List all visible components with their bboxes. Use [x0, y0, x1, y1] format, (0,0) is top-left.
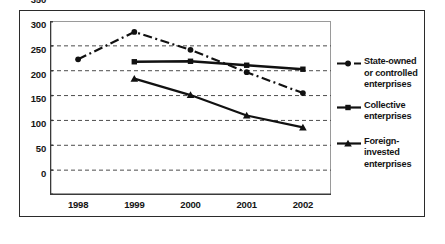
legend-label-collective-line2: enterprises: [364, 111, 411, 121]
legend-label-foreign-invested-line1: Foreign-: [364, 136, 399, 146]
x-tick-1998: 1998: [55, 199, 101, 210]
gridlines: [50, 46, 331, 170]
x-tick-2000: 2000: [168, 199, 214, 210]
y-axis-tick-labels: 350 300 250 200 150 100 50 0: [8, 0, 46, 174]
y-tick-150: 150: [12, 94, 46, 104]
legend: State-owned or controlled enterprises Co…: [337, 56, 423, 179]
y-tick-0: 0: [12, 169, 46, 179]
chart-figure: 350 300 250 200 150 100 50 0: [0, 0, 445, 244]
legend-label-state-owned: State-owned or controlled enterprises: [364, 56, 423, 91]
legend-item-foreign-invested: Foreign- invested enterprises: [337, 136, 423, 171]
y-tick-350: 350: [12, 0, 46, 5]
legend-label-foreign-invested-line2: invested: [364, 147, 400, 157]
legend-label-state-owned-line2: or controlled: [364, 68, 418, 78]
legend-key-collective-solid-square: [337, 102, 361, 113]
y-tick-200: 200: [12, 70, 46, 80]
legend-label-foreign-invested: Foreign- invested enterprises: [364, 136, 423, 171]
plot-canvas: [50, 21, 331, 195]
legend-label-state-owned-line1: State-owned: [364, 56, 416, 66]
x-tick-2001: 2001: [224, 199, 270, 210]
legend-label-state-owned-line3: enterprises: [364, 79, 411, 89]
series-collective-line: [134, 61, 303, 69]
y-tick-250: 250: [12, 45, 46, 55]
y-tick-50: 50: [12, 144, 46, 154]
legend-item-state-owned: State-owned or controlled enterprises: [337, 56, 423, 91]
x-axis-tick-labels: 1998 1999 2000 2001 2002: [50, 199, 331, 215]
series-foreign-invested: [131, 75, 307, 130]
y-tick-300: 300: [12, 20, 46, 30]
legend-label-collective-line1: Collective: [364, 100, 405, 110]
legend-key-state-owned-dash-dot-circle: [337, 58, 361, 69]
legend-item-collective: Collective enterprises: [337, 100, 423, 123]
legend-label-foreign-invested-line3: enterprises: [364, 159, 411, 169]
legend-key-foreign-invested-solid-triangle: [337, 138, 361, 149]
y-tick-100: 100: [12, 119, 46, 129]
x-tick-1999: 1999: [111, 199, 157, 210]
legend-label-collective: Collective enterprises: [364, 100, 423, 123]
x-tick-2002: 2002: [280, 199, 326, 210]
